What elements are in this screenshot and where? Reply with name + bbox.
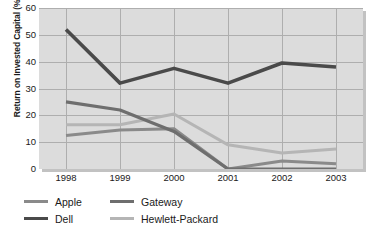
legend-label-hewlett-packard: Hewlett-Packard — [141, 213, 218, 225]
x-tick-1999: 1999 — [97, 172, 143, 183]
legend-row: Apple Gateway — [24, 193, 324, 210]
plot-area — [39, 8, 363, 169]
legend-label-apple: Apple — [55, 196, 82, 208]
legend-swatch-dell — [24, 217, 48, 220]
y-tick-0: 0 — [12, 163, 36, 174]
x-tick-2001: 2001 — [205, 172, 251, 183]
legend-item-dell: Dell — [24, 213, 110, 225]
y-tick-40: 40 — [12, 56, 36, 67]
y-tick-10: 10 — [12, 136, 36, 147]
legend-item-hewlett-packard: Hewlett-Packard — [110, 213, 218, 225]
y-tick-50: 50 — [12, 29, 36, 40]
line-dell — [66, 29, 336, 83]
legend-swatch-hewlett-packard — [110, 217, 134, 220]
x-tick-2000: 2000 — [151, 172, 197, 183]
line-gateway — [66, 102, 336, 169]
legend-label-gateway: Gateway — [141, 196, 182, 208]
legend-swatch-apple — [24, 200, 48, 203]
legend-swatch-gateway — [110, 200, 134, 203]
legend-item-apple: Apple — [24, 196, 110, 208]
legend-row: Dell Hewlett-Packard — [24, 210, 324, 227]
chart-container: Return on Invested Capital (%) 010203040… — [0, 0, 375, 231]
chart-legend: Apple Gateway Dell Hewlett-Packard — [24, 193, 324, 227]
legend-item-gateway: Gateway — [110, 196, 182, 208]
x-tick-1998: 1998 — [43, 172, 89, 183]
x-tick-2002: 2002 — [259, 172, 305, 183]
y-tick-60: 60 — [12, 2, 36, 13]
series-lines — [39, 8, 363, 169]
y-tick-30: 30 — [12, 83, 36, 94]
x-tick-2003: 2003 — [313, 172, 359, 183]
y-tick-20: 20 — [12, 109, 36, 120]
legend-label-dell: Dell — [55, 213, 73, 225]
